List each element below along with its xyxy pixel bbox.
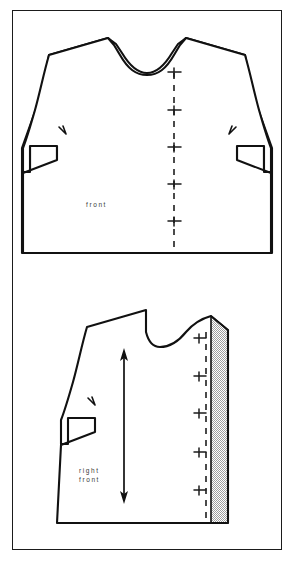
front-piece-label: front xyxy=(86,200,107,209)
figure-frame-border xyxy=(12,10,282,550)
right-front-label-line-2: front xyxy=(79,476,100,483)
pattern-figure-page: front rightfront xyxy=(0,0,296,569)
right-front-piece-label: rightfront xyxy=(79,466,100,484)
right-front-label-line-1: right xyxy=(79,467,100,474)
